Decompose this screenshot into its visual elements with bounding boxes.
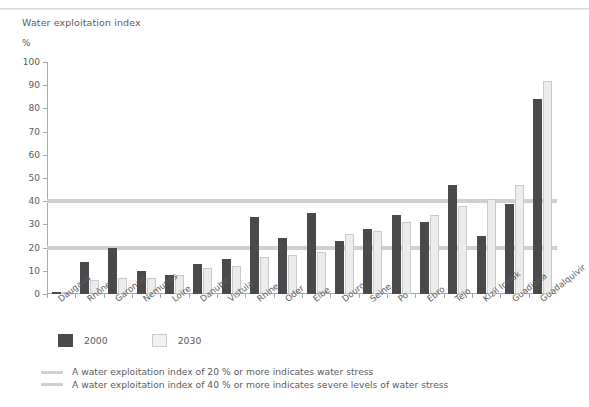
y-axis-tick-label: 70 — [29, 127, 40, 137]
legend-swatch-2000 — [58, 334, 73, 347]
y-axis-tick-label: 0 — [34, 289, 40, 299]
bar-group — [472, 62, 500, 294]
x-axis-tick — [472, 294, 473, 298]
bar-2030[interactable] — [543, 81, 552, 294]
bar-group — [160, 62, 188, 294]
x-axis-tick — [47, 294, 48, 298]
bar-group — [415, 62, 443, 294]
bar-group — [330, 62, 358, 294]
legend-label-2000: 2000 — [84, 335, 108, 346]
x-axis-tick — [160, 294, 161, 298]
bar-2030[interactable] — [430, 215, 439, 294]
bar-group — [500, 62, 528, 294]
bar-group — [104, 62, 132, 294]
chart-title: Water exploitation index — [22, 17, 141, 28]
x-axis-tick — [387, 294, 388, 298]
y-axis-tick-label: 80 — [29, 103, 40, 113]
reference-line-notes: A water exploitation index of 20 % or mo… — [41, 366, 561, 391]
y-axis-unit-label: % — [22, 38, 31, 48]
y-axis-tick-label: 40 — [29, 196, 40, 206]
bar-2000[interactable] — [193, 264, 202, 294]
x-axis-tick — [415, 294, 416, 298]
bar-group — [217, 62, 245, 294]
legend-label-2030: 2030 — [178, 335, 202, 346]
bar-2000[interactable] — [420, 222, 429, 294]
bar-2000[interactable] — [533, 99, 542, 294]
bar-group — [189, 62, 217, 294]
bar-2030[interactable] — [402, 222, 411, 294]
note-water-stress: A water exploitation index of 20 % or mo… — [41, 366, 561, 379]
bar-group — [245, 62, 273, 294]
bar-2030[interactable] — [458, 206, 467, 294]
bar-group — [47, 62, 75, 294]
x-axis-tick — [189, 294, 190, 298]
bar-2000[interactable] — [392, 215, 401, 294]
bar-group — [529, 62, 557, 294]
x-axis-tick — [529, 294, 530, 298]
x-axis-tick — [217, 294, 218, 298]
reference-line-swatch-40 — [41, 383, 63, 386]
x-axis-tick — [132, 294, 133, 298]
bar-group — [444, 62, 472, 294]
bar-2030[interactable] — [487, 199, 496, 294]
bar-group — [132, 62, 160, 294]
chart-plot-area: 0102030405060708090100 — [47, 62, 557, 294]
legend-swatch-2030 — [152, 334, 167, 347]
x-axis-tick — [245, 294, 246, 298]
bar-group — [75, 62, 103, 294]
x-axis-tick — [330, 294, 331, 298]
x-axis-tick — [302, 294, 303, 298]
bar-group — [359, 62, 387, 294]
x-axis-tick — [359, 294, 360, 298]
bar-2000[interactable] — [335, 241, 344, 294]
bar-2000[interactable] — [363, 229, 372, 294]
note-text-20: A water exploitation index of 20 % or mo… — [72, 366, 373, 379]
header-divider-shadow — [0, 9, 589, 10]
bar-groups — [47, 62, 557, 294]
x-axis-tick — [444, 294, 445, 298]
reference-line-swatch-20 — [41, 371, 63, 374]
x-axis-tick — [500, 294, 501, 298]
note-text-40: A water exploitation index of 40 % or mo… — [72, 379, 448, 392]
y-axis-tick-label: 100 — [23, 57, 40, 67]
bar-2000[interactable] — [278, 238, 287, 294]
y-axis-tick-label: 10 — [29, 266, 40, 276]
x-axis-tick — [104, 294, 105, 298]
bar-2000[interactable] — [477, 236, 486, 294]
bar-group — [274, 62, 302, 294]
bar-group — [387, 62, 415, 294]
bar-2000[interactable] — [448, 185, 457, 294]
x-axis-tick — [274, 294, 275, 298]
y-axis-tick-label: 30 — [29, 219, 40, 229]
y-axis-tick-label: 50 — [29, 173, 40, 183]
note-severe-water-stress: A water exploitation index of 40 % or mo… — [41, 379, 561, 392]
bar-2000[interactable] — [307, 213, 316, 294]
x-axis-tick — [75, 294, 76, 298]
y-axis-tick-label: 20 — [29, 243, 40, 253]
chart-legend: 2000 2030 — [58, 334, 201, 347]
y-axis-tick-label: 90 — [29, 80, 40, 90]
bar-group — [302, 62, 330, 294]
y-axis-tick-label: 60 — [29, 150, 40, 160]
